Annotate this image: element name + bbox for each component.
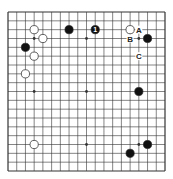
white-stone-icon	[30, 52, 38, 60]
white-stone-icon	[21, 70, 29, 78]
marker-label-a: A	[136, 26, 142, 35]
star-point-icon	[85, 143, 88, 146]
star-point-icon	[85, 37, 88, 40]
marker-label-c: C	[136, 52, 142, 61]
black-stone-icon	[65, 26, 73, 34]
star-point-icon	[33, 90, 36, 93]
go-board: 1 ABC	[0, 0, 173, 179]
move-number-label: 1	[93, 26, 97, 33]
black-stone-icon	[143, 140, 151, 148]
black-stone-icon	[143, 34, 151, 42]
white-stone-icon	[39, 34, 47, 42]
marker-label-b: B	[127, 35, 133, 44]
star-point-icon	[137, 37, 140, 40]
white-stone-icon	[30, 140, 38, 148]
white-stone-icon	[126, 26, 134, 34]
black-stone-icon	[126, 149, 134, 157]
star-point-icon	[85, 90, 88, 93]
white-stone-icon	[30, 26, 38, 34]
black-stone-icon	[135, 87, 143, 95]
black-stone-icon	[21, 43, 29, 51]
star-point-icon	[137, 143, 140, 146]
star-point-icon	[33, 37, 36, 40]
